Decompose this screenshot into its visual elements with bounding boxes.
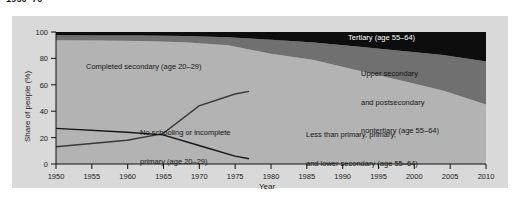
axis-x-ticks bbox=[56, 164, 486, 169]
annotation-less-than-primary-line1: Less than primary, primary, bbox=[306, 130, 418, 140]
axis-y-ticks bbox=[51, 32, 56, 164]
annotation-less-than-primary-line2: and lower secondary (age 55–64) bbox=[306, 159, 418, 169]
annotation-completed-secondary: Completed secondary (age 20–29) bbox=[86, 62, 202, 72]
annotation-no-schooling-line2: primary (age 20–29) bbox=[140, 157, 230, 167]
annotation-tertiary: Tertiary (age 55–64) bbox=[348, 33, 415, 43]
x-tick-1955: 1955 bbox=[79, 172, 105, 181]
annotation-less-than-primary: Less than primary, primary, and lower se… bbox=[306, 111, 418, 187]
y-tick-0: 0 bbox=[26, 160, 48, 169]
chart-title: 1950–70 bbox=[6, 0, 42, 4]
annotation-no-schooling: No schooling or incomplete primary (age … bbox=[140, 109, 230, 185]
x-tick-2005: 2005 bbox=[437, 172, 463, 181]
x-tick-2010: 2010 bbox=[473, 172, 499, 181]
annotation-upper-secondary-line2: and postsecondary bbox=[361, 98, 439, 108]
y-axis-label: Share of people (%) bbox=[23, 71, 32, 142]
annotation-upper-secondary-line1: Upper secondary bbox=[361, 69, 439, 79]
annotation-no-schooling-line1: No schooling or incomplete bbox=[140, 128, 230, 138]
chart-plot-area: 100 80 60 40 20 0 1950 1955 1960 1965 19… bbox=[12, 16, 508, 188]
y-tick-80: 80 bbox=[26, 54, 48, 63]
chart-figure: 1950–70 bbox=[0, 0, 520, 202]
x-tick-1950: 1950 bbox=[43, 172, 69, 181]
y-tick-100: 100 bbox=[26, 28, 48, 37]
x-tick-1960: 1960 bbox=[115, 172, 141, 181]
x-axis-label: Year bbox=[227, 182, 307, 191]
x-tick-1980: 1980 bbox=[258, 172, 284, 181]
